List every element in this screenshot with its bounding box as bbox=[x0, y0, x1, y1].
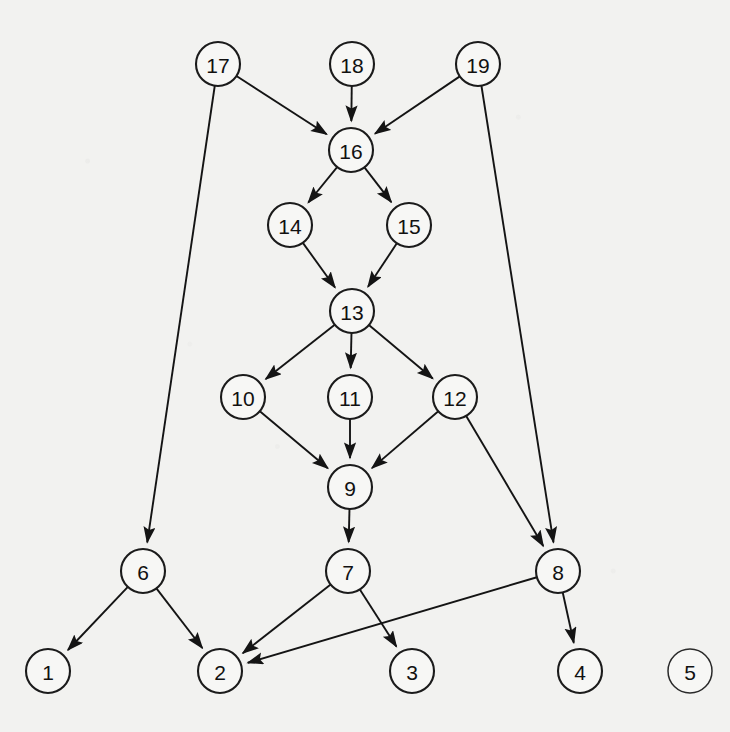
node-17[interactable]: 17 bbox=[196, 42, 240, 86]
node-label-18: 18 bbox=[340, 54, 363, 77]
node-label-13: 13 bbox=[340, 301, 363, 324]
node-19[interactable]: 19 bbox=[456, 42, 500, 86]
graph-figure: 12345678910111213141516171819 bbox=[0, 0, 730, 732]
node-label-19: 19 bbox=[466, 54, 489, 77]
node-label-15: 15 bbox=[397, 215, 420, 238]
node-label-9: 9 bbox=[344, 477, 356, 500]
node-label-17: 17 bbox=[206, 54, 229, 77]
node-label-5: 5 bbox=[684, 661, 696, 684]
nodes-layer: 12345678910111213141516171819 bbox=[26, 42, 712, 693]
node-label-8: 8 bbox=[552, 561, 564, 584]
node-16[interactable]: 16 bbox=[329, 128, 373, 172]
node-2[interactable]: 2 bbox=[198, 649, 242, 693]
node-label-7: 7 bbox=[342, 561, 354, 584]
node-12[interactable]: 12 bbox=[433, 375, 477, 419]
node-1[interactable]: 1 bbox=[26, 649, 70, 693]
edge-7-to-3 bbox=[360, 590, 397, 647]
edge-17-to-6 bbox=[147, 86, 215, 543]
edge-16-to-14 bbox=[308, 167, 337, 202]
edge-8-to-4 bbox=[563, 592, 574, 642]
edge-12-to-8 bbox=[466, 416, 543, 546]
node-label-6: 6 bbox=[137, 561, 149, 584]
edge-6-to-1 bbox=[68, 587, 128, 650]
node-9[interactable]: 9 bbox=[328, 465, 372, 509]
edge-15-to-13 bbox=[368, 243, 397, 286]
node-label-14: 14 bbox=[278, 215, 302, 238]
edge-19-to-16 bbox=[375, 76, 460, 133]
node-8[interactable]: 8 bbox=[536, 549, 580, 593]
node-label-10: 10 bbox=[231, 387, 254, 410]
node-14[interactable]: 14 bbox=[268, 203, 312, 247]
node-7[interactable]: 7 bbox=[326, 549, 370, 593]
node-label-3: 3 bbox=[406, 661, 418, 684]
node-label-11: 11 bbox=[339, 387, 361, 410]
edge-10-to-9 bbox=[260, 411, 328, 468]
node-18[interactable]: 18 bbox=[330, 42, 374, 86]
node-15[interactable]: 15 bbox=[387, 203, 431, 247]
node-6[interactable]: 6 bbox=[121, 549, 165, 593]
node-4[interactable]: 4 bbox=[558, 649, 602, 693]
node-label-16: 16 bbox=[339, 140, 362, 163]
edge-13-to-12 bbox=[369, 325, 433, 378]
node-13[interactable]: 13 bbox=[330, 289, 374, 333]
node-10[interactable]: 10 bbox=[221, 375, 265, 419]
node-label-12: 12 bbox=[443, 387, 466, 410]
edge-19-to-8 bbox=[481, 86, 553, 543]
edge-13-to-10 bbox=[266, 325, 335, 379]
edge-17-to-16 bbox=[236, 76, 326, 134]
edge-13-to-11 bbox=[351, 333, 352, 368]
node-5[interactable]: 5 bbox=[668, 649, 712, 693]
node-label-4: 4 bbox=[574, 661, 586, 684]
node-11[interactable]: 11 bbox=[328, 375, 372, 419]
edge-16-to-15 bbox=[364, 167, 391, 202]
graph-canvas: 12345678910111213141516171819 bbox=[0, 0, 730, 732]
node-label-2: 2 bbox=[214, 661, 226, 684]
node-3[interactable]: 3 bbox=[390, 649, 434, 693]
edge-12-to-9 bbox=[372, 411, 438, 468]
edge-14-to-13 bbox=[303, 243, 335, 288]
edge-9-to-7 bbox=[349, 509, 350, 542]
edge-8-to-2 bbox=[248, 577, 537, 663]
node-label-1: 1 bbox=[42, 661, 54, 684]
edge-6-to-2 bbox=[156, 588, 202, 648]
